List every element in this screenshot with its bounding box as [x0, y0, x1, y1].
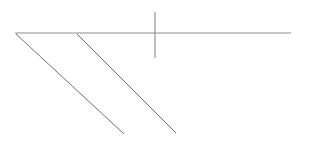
line-drawing	[0, 0, 310, 142]
drawing-canvas	[0, 0, 310, 142]
